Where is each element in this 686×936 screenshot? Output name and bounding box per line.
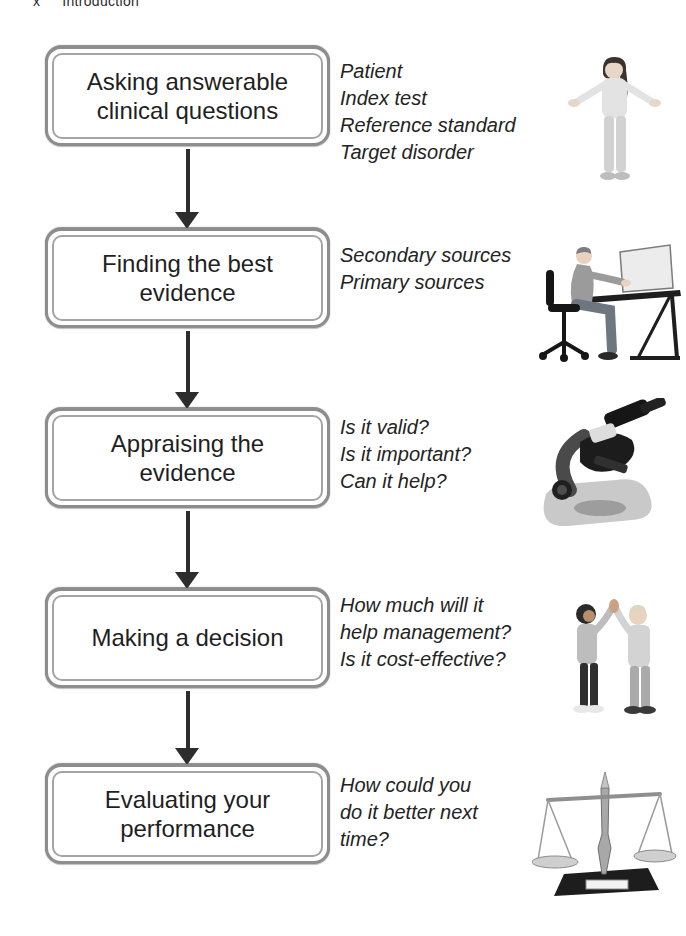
- flowchart-box-making-decision: Making a decision: [45, 588, 330, 688]
- microscope-stage-shadow: [574, 500, 626, 516]
- flowchart-box-label: Making a decision: [52, 595, 323, 681]
- chair-caster-mid: [560, 354, 568, 362]
- scale-finial: [601, 772, 609, 788]
- flowchart-box-evaluating-performance: Evaluating your performance: [45, 764, 330, 864]
- girl-right-hand: [649, 99, 661, 107]
- chapter-title: Introduction: [62, 0, 139, 9]
- book-page: xIntroduction Asking answerable clinical…: [0, 0, 686, 936]
- person-legs: [576, 304, 612, 350]
- chair-seat: [548, 304, 580, 312]
- scale-left-pan: [532, 856, 578, 868]
- flowchart-box-asking-questions: Asking answerable clinical questions: [45, 46, 330, 146]
- children-high-five-photo: [550, 588, 676, 716]
- flowchart-box-finding-evidence: Finding the best evidence: [45, 228, 330, 328]
- page-number: x: [33, 0, 40, 9]
- left-child-arm: [594, 608, 612, 632]
- girl-shrugging-photo: [558, 52, 670, 184]
- girl-left-arm: [578, 85, 604, 101]
- flowchart-box-appraising-evidence: Appraising the evidence: [45, 408, 330, 508]
- side-note-asking-questions: Patient Index test Reference standard Ta…: [340, 58, 555, 166]
- desk-leg-right: [672, 296, 677, 358]
- flowchart-box-label: Asking answerable clinical questions: [52, 53, 323, 139]
- microscope-knob-inner: [557, 485, 567, 495]
- chair-back: [546, 270, 554, 306]
- desk-leg-cross: [638, 296, 670, 358]
- side-note-appraising-evidence: Is it valid? Is it important? Can it hel…: [340, 414, 555, 495]
- chair-caster-right: [581, 352, 589, 360]
- flow-arrow-4: [175, 691, 200, 765]
- flow-arrow-3: [175, 511, 200, 589]
- chair-base: [544, 342, 584, 356]
- microscope-photo: [528, 398, 674, 530]
- girl-right-shoe: [614, 172, 630, 180]
- person-hand: [621, 280, 631, 287]
- flowchart-box-label: Finding the best evidence: [52, 235, 323, 321]
- right-child-right-leg: [641, 666, 650, 708]
- person-shoe: [598, 352, 618, 360]
- person-torso: [571, 264, 594, 304]
- chair-caster-left: [539, 352, 547, 360]
- scale-right-chain-a: [638, 794, 660, 854]
- scale-pillar: [598, 788, 611, 874]
- left-child-face: [583, 610, 595, 622]
- flow-arrow-1: [175, 149, 200, 229]
- girl-right-arm: [625, 85, 651, 101]
- side-note-making-decision: How much will it help management? Is it …: [340, 592, 555, 673]
- girl-right-leg: [616, 116, 626, 172]
- scale-base-plate: [586, 880, 628, 889]
- scale-right-chain-b: [660, 794, 672, 854]
- girl-left-hand: [568, 99, 580, 107]
- flow-arrow-2: [175, 331, 200, 409]
- left-child-shoe-b: [586, 705, 604, 713]
- left-child-right-leg: [590, 663, 598, 707]
- balance-scale-photo: [532, 762, 677, 904]
- flowchart-box-label: Evaluating your performance: [52, 771, 323, 857]
- person-at-computer-photo: [522, 238, 682, 362]
- left-child-left-leg: [580, 663, 588, 707]
- running-head: xIntroduction: [33, 0, 139, 9]
- scale-right-pan: [634, 850, 676, 862]
- girl-left-leg: [604, 116, 614, 172]
- girl-left-shoe: [600, 172, 616, 180]
- right-child-shoe-b: [638, 706, 656, 714]
- scale-left-chain-b: [548, 800, 572, 860]
- flowchart-box-label: Appraising the evidence: [52, 415, 323, 501]
- side-note-evaluating-performance: How could you do it better next time?: [340, 772, 555, 853]
- scale-left-chain-a: [538, 800, 548, 860]
- high-five-hands: [609, 599, 619, 613]
- right-child-left-leg: [630, 666, 639, 708]
